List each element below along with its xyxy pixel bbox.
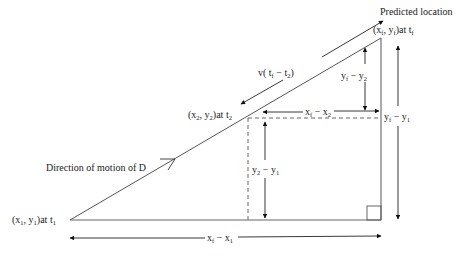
velocity-arrow-lower [241,80,283,104]
velocity-label: v( tf − t2) [258,67,294,79]
hypotenuse-line [70,38,381,220]
dim-label-yf-y1: yf − y1 [384,111,410,123]
dim-label-yf-y2: yf − y2 [341,70,367,82]
dim-label-y2-y1: y2 − y1 [252,164,279,176]
diagram-svg: Predicted location (xf, yf)at tf (x2, y2… [0,0,455,258]
point-final-label: (xf, yf)at tf [373,24,415,36]
dim-label-xf-x2: xf − x2 [305,106,331,118]
point-mid-label: (x2, y2)at t2 [188,109,232,121]
direction-of-motion-label: Direction of motion of D [46,162,146,173]
dim-arrow-xf-x1-right [238,236,381,237]
direction-arrow-icon [160,159,175,170]
dim-label-xf-x1: xf − x1 [207,232,233,244]
predicted-location-title: Predicted location [380,6,452,17]
motion-prediction-diagram: Predicted location (xf, yf)at tf (x2, y2… [0,0,455,258]
point-start-label: (x1, y1)at t1 [12,214,56,226]
right-angle-marker [367,206,381,220]
